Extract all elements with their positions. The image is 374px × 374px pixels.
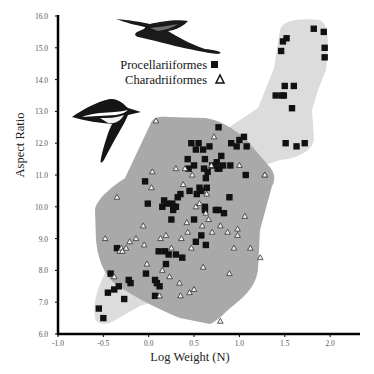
data-point-square	[142, 178, 148, 184]
data-point-square	[289, 105, 295, 111]
data-point-square	[198, 188, 204, 194]
data-point-square	[193, 146, 199, 152]
data-point-square	[165, 251, 171, 257]
albatross-illustration-icon	[116, 19, 221, 54]
data-point-square	[226, 194, 232, 200]
data-point-square	[96, 305, 102, 311]
data-point-square	[188, 140, 194, 146]
y-tick-label: 15.0	[35, 44, 48, 53]
data-point-square	[220, 162, 226, 168]
data-point-square	[163, 261, 169, 267]
y-tick-label: 12.0	[35, 139, 48, 148]
data-point-square	[227, 162, 233, 168]
data-point-square	[143, 270, 149, 276]
data-point-square	[121, 296, 127, 302]
data-point-square	[173, 251, 179, 257]
legend-label-procellariiformes: Procellariiformes	[120, 58, 207, 72]
data-point-square	[204, 169, 210, 175]
data-point-square	[282, 83, 288, 89]
data-point-square	[321, 29, 327, 35]
x-tick-label: 1.5	[280, 339, 290, 348]
data-point-square	[278, 48, 284, 54]
data-point-square	[243, 143, 249, 149]
x-axis-label: Log Weight (N)	[150, 350, 229, 364]
x-tick-label: -1.0	[52, 339, 64, 348]
data-point-square	[193, 239, 199, 245]
data-point-square	[282, 140, 288, 146]
data-point-square	[127, 280, 133, 286]
x-tick-label: 0.0	[144, 339, 154, 348]
data-point-square	[302, 140, 308, 146]
data-point-square	[291, 83, 297, 89]
data-point-square	[145, 200, 151, 206]
data-point-square	[281, 92, 287, 98]
legend-label-charadriiformes: Charadriiformes	[125, 73, 207, 87]
x-tick-label: 0.5	[189, 339, 199, 348]
data-point-square	[272, 92, 278, 98]
tern-illustration-icon	[72, 99, 141, 163]
data-point-square	[155, 248, 161, 254]
data-point-square	[203, 175, 209, 181]
data-point-square	[105, 289, 111, 295]
y-tick-label: 9.0	[39, 235, 49, 244]
data-point-square	[215, 124, 221, 130]
y-tick-label: 7.0	[39, 298, 49, 307]
data-point-triangle	[218, 318, 224, 323]
legend-triangle-icon	[216, 75, 224, 83]
data-point-square	[233, 143, 239, 149]
y-axis-label: Aspect Ratio	[13, 113, 27, 178]
data-point-square	[191, 216, 197, 222]
y-axis-ticks: 6.07.08.09.010.011.012.013.014.015.016.0	[35, 12, 58, 339]
data-point-square	[116, 283, 122, 289]
y-tick-label: 6.0	[39, 330, 49, 339]
data-point-square	[203, 242, 209, 248]
data-point-square	[185, 156, 191, 162]
data-point-square	[179, 254, 185, 260]
data-point-square	[100, 315, 106, 321]
x-tick-label: 1.0	[235, 339, 245, 348]
data-point-square	[321, 45, 327, 51]
data-point-square	[186, 188, 192, 194]
data-point-square	[202, 156, 208, 162]
y-tick-label: 11.0	[35, 171, 48, 180]
data-point-square	[198, 232, 204, 238]
data-point-square	[156, 283, 162, 289]
y-tick-label: 10.0	[35, 203, 48, 212]
data-point-square	[204, 185, 210, 191]
data-point-square	[215, 207, 221, 213]
data-point-square	[191, 162, 197, 168]
data-point-square	[243, 172, 249, 178]
data-point-square	[164, 200, 170, 206]
y-tick-label: 14.0	[35, 76, 48, 85]
data-point-square	[293, 143, 299, 149]
y-tick-label: 16.0	[35, 12, 48, 21]
data-point-square	[206, 143, 212, 149]
data-point-square	[177, 191, 183, 197]
data-point-square	[221, 210, 227, 216]
data-point-square	[214, 159, 220, 165]
x-tick-label: 2.0	[325, 339, 335, 348]
data-point-square	[218, 153, 224, 159]
scatter-chart: 6.07.08.09.010.011.012.013.014.015.016.0…	[0, 0, 374, 374]
y-tick-label: 8.0	[39, 266, 49, 275]
data-point-square	[228, 140, 234, 146]
data-point-square	[195, 140, 201, 146]
x-axis-ticks: -1.0-0.50.00.51.01.52.0	[52, 334, 335, 348]
data-point-square	[283, 35, 289, 41]
x-tick-label: -0.5	[97, 339, 109, 348]
data-point-square	[173, 204, 179, 210]
data-point-square	[311, 26, 317, 32]
data-point-square	[200, 146, 206, 152]
legend: Procellariiformes Charadriiformes	[120, 58, 224, 87]
data-point-square	[321, 54, 327, 60]
legend-square-icon	[211, 61, 218, 68]
data-point-square	[168, 216, 174, 222]
data-point-square	[241, 134, 247, 140]
y-tick-label: 13.0	[35, 107, 48, 116]
